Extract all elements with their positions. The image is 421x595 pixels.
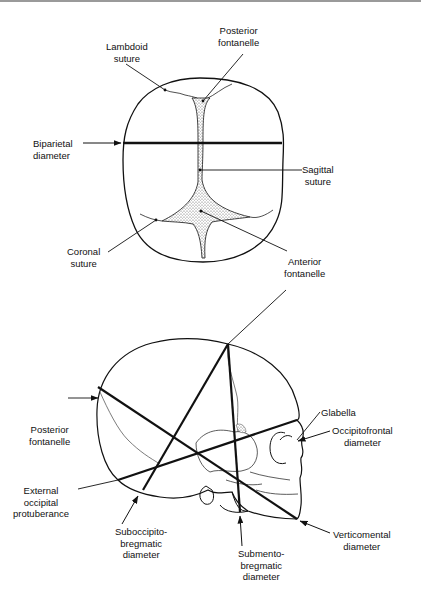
lambdoid-suture-line — [165, 84, 232, 99]
leader-suboccipitobregmatic — [122, 496, 138, 524]
label-sagittal-suture: Sagittal suture — [302, 164, 334, 187]
label-anterior-fontanelle: Anterior fontanelle — [284, 256, 325, 279]
label-suboccipitobregmatic-diameter: Suboccipito- bregmatic diameter — [115, 526, 167, 561]
leader-submentobregmatic — [240, 516, 242, 546]
label-posterior-fontanelle-lateral: Posterior fontanelle — [29, 424, 70, 447]
lateral-skull-view — [68, 290, 330, 546]
fontanelle-shading — [162, 98, 250, 258]
label-verticomental-diameter: Verticomental diameter — [333, 529, 391, 552]
label-occipitofrontal-diameter: Occipitofrontal diameter — [332, 425, 393, 448]
leader-external-occipital — [78, 480, 118, 489]
top-skull-view — [83, 54, 302, 262]
label-biparietal-diameter: Biparietal diameter — [33, 138, 73, 161]
leader-glabella — [297, 412, 320, 440]
leader-lambdoid — [126, 64, 165, 90]
label-lambdoid-suture: Lambdoid suture — [106, 41, 148, 64]
ear-region — [200, 486, 214, 504]
label-submentobregmatic-diameter: Submento- bregmatic diameter — [238, 548, 284, 583]
label-posterior-fontanelle-top: Posterior fontanelle — [218, 25, 259, 48]
leader-anterior-fontanelle-lateral — [228, 290, 286, 344]
label-glabella: Glabella — [321, 407, 356, 419]
orbit-outline — [270, 432, 292, 463]
leader-verticomental — [300, 521, 330, 533]
leader-posterior-fontanelle — [203, 54, 243, 101]
label-coronal-suture: Coronal suture — [67, 246, 100, 269]
mandible-outline — [220, 492, 248, 512]
label-external-occipital-protuberance: External occipital protuberance — [13, 485, 69, 520]
